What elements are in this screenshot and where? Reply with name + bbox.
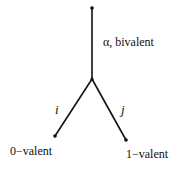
node-junction xyxy=(90,77,93,80)
node-top xyxy=(90,6,94,10)
label-0-valent: 0−valent xyxy=(10,145,52,157)
edge-i xyxy=(55,79,92,136)
node-left xyxy=(53,134,57,138)
node-right xyxy=(124,138,128,142)
label-edge-j: j xyxy=(121,103,125,116)
label-1-valent: 1−valent xyxy=(126,148,168,160)
label-alpha-bivalent: α, bivalent xyxy=(103,36,154,48)
label-edge-i: i xyxy=(55,103,59,116)
